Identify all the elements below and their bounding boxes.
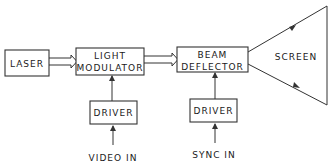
light-modulator-block: LIGHT MODULATOR [76,48,144,75]
laser-label: LASER [10,59,44,69]
modulator-label: MODULATOR [77,63,144,73]
driver-2-label: DRIVER [194,106,234,116]
laser-to-modulator-arrow [49,55,77,68]
modulator-to-deflector-arrow [144,53,178,66]
laser-block: LASER [5,50,49,76]
block-diagram: LASER LIGHT MODULATOR BEAM DEFLECTOR SCR… [0,0,331,167]
beam-label: BEAM [198,50,228,60]
screen-block: SCREEN [248,6,327,105]
screen-label: SCREEN [275,52,317,62]
video-in-label: VIDEO IN [89,153,138,163]
light-label: LIGHT [94,51,126,61]
deflector-label: DEFLECTOR [181,62,244,72]
beam-deflector-block: BEAM DEFLECTOR [177,47,248,72]
driver-1-block: DRIVER VIDEO IN [89,76,138,163]
upper-beam [248,6,327,52]
sync-in-label: SYNC IN [192,150,235,160]
driver-2-block: DRIVER SYNC IN [190,73,237,160]
lower-beam-arrowhead-icon [293,82,300,88]
driver-1-label: DRIVER [94,108,134,118]
lower-beam [248,64,327,105]
